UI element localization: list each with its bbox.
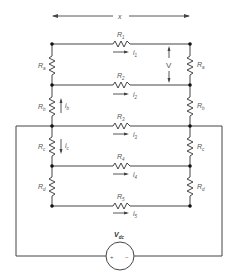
resistor-right-ra-icon: [187, 56, 193, 75]
source-minus: −: [125, 254, 129, 260]
i5-label: i5: [133, 210, 138, 219]
dimension-x: x: [52, 13, 190, 20]
dimension-v: V: [166, 46, 172, 83]
left-rc-label: Rc: [38, 143, 46, 152]
resistor-left-ra-icon: [49, 56, 55, 75]
resistor-r4-icon: [113, 163, 130, 169]
resistor-r2-icon: [113, 82, 130, 88]
ic-label: ic: [65, 142, 70, 151]
r2-label: R2: [117, 72, 125, 81]
i1-label: i1: [133, 49, 138, 58]
resistor-r3-icon: [113, 123, 130, 129]
r1-label: R1: [117, 31, 125, 40]
right-rb-label: Rb: [197, 102, 205, 111]
left-rd-label: Rd: [38, 183, 46, 192]
resistor-left-rd-icon: [49, 177, 55, 196]
source-plus: +: [110, 254, 114, 260]
left-rb-label: Rb: [38, 103, 46, 112]
voltage-v-label: V: [166, 61, 172, 70]
i4-label: i4: [133, 171, 138, 180]
row-r5: R5 i5: [52, 193, 190, 219]
dimension-x-label: x: [117, 13, 122, 20]
vdc-label: Vdc: [114, 231, 124, 240]
circuit-diagram: x R1 i1 R2 i2 R3 i3 R4 i4 R5: [0, 0, 232, 280]
ib-label: ib: [65, 102, 70, 111]
right-rc-label: Rc: [197, 143, 205, 152]
resistor-left-rb-icon: [49, 97, 55, 116]
row-r4: R4 i4: [52, 153, 190, 180]
right-rd-label: Rd: [197, 183, 205, 192]
i3-label: i3: [133, 131, 138, 140]
resistor-right-rb-icon: [187, 97, 193, 116]
resistor-right-rc-icon: [187, 137, 193, 156]
left-column: Ra Rb ib Rc ic Rd: [38, 44, 70, 206]
r4-label: R4: [117, 153, 125, 162]
left-ra-label: Ra: [38, 62, 46, 71]
r3-label: R3: [117, 113, 125, 122]
i2-label: i2: [133, 91, 138, 100]
dc-source: + − Vdc: [106, 231, 134, 270]
resistor-right-rd-icon: [187, 177, 193, 196]
r5-label: R5: [117, 193, 125, 202]
resistor-r1-icon: [113, 41, 130, 47]
right-ra-label: Ra: [197, 61, 205, 70]
resistor-r5-icon: [113, 203, 130, 209]
resistor-left-rc-icon: [49, 137, 55, 156]
